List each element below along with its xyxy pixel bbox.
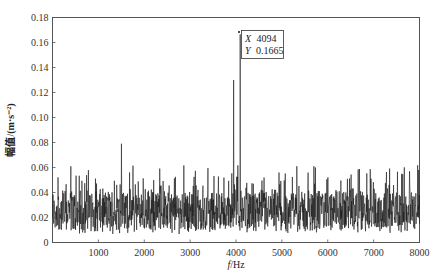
y-tick-label: 0.08 [31,137,49,148]
datatip[interactable]: X 4094 Y 0.1665 [238,31,284,59]
x-tick-label: 6000 [318,247,338,258]
datatip-y-line: Y 0.1665 [245,45,284,56]
y-tick-label: 0.18 [31,12,49,23]
y-tick-label: 0.04 [31,187,49,198]
datatip-x-line: X 4094 [244,33,277,44]
y-axis-title: 幅值/(m·s⁻²) [4,104,17,157]
y-tick-label: 0.06 [31,162,49,173]
datatip-marker [238,31,240,33]
y-axis: 00.020.040.060.080.100.120.140.160.18 [31,12,56,248]
x-tick-label: 7000 [364,247,384,258]
x-tick-label: 1000 [88,247,108,258]
y-tick-label: 0.02 [31,212,49,223]
y-tick-label: 0.10 [31,112,49,123]
x-tick-label: 3000 [180,247,200,258]
y-tick-label: 0.12 [31,87,49,98]
x-tick-label: 2000 [134,247,154,258]
x-axis-title: f/Hz [227,259,245,270]
plot-area: 00.020.040.060.080.100.120.140.160.18 10… [31,12,430,258]
y-tick-label: 0.16 [31,37,49,48]
y-tick-label: 0.14 [31,62,49,73]
x-tick-label: 5000 [272,247,292,258]
x-tick-label: 8000 [410,247,430,258]
spectrum-chart: 00.020.040.060.080.100.120.140.160.18 10… [0,0,441,278]
x-tick-label: 4000 [226,247,246,258]
y-tick-label: 0 [44,237,49,248]
